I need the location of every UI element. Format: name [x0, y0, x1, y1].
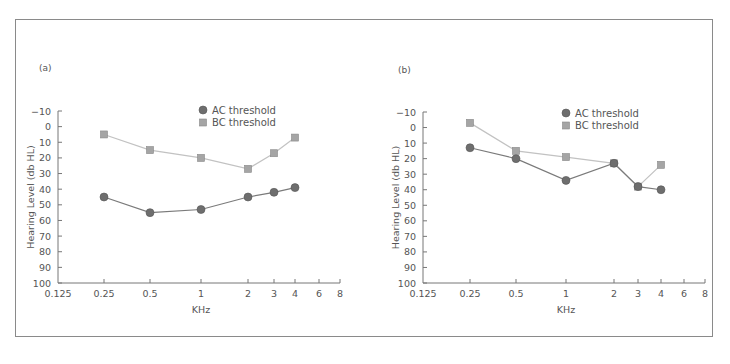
x-tick-label: 0.125 — [44, 288, 71, 299]
y-tick-label: 40 — [404, 184, 416, 195]
ac-threshold-point — [291, 184, 299, 192]
y-tick-label: 30 — [39, 168, 51, 179]
y-tick-label: 100 — [33, 278, 51, 289]
ac-threshold-point — [244, 193, 252, 201]
x-tick-label: 0.25 — [93, 288, 114, 299]
y-tick-label: 10 — [39, 137, 51, 148]
x-tick-label: 1 — [563, 288, 569, 299]
legend-ac-marker-icon — [199, 106, 207, 114]
ac-threshold-point — [197, 206, 205, 214]
x-tick-label: 0.5 — [508, 288, 523, 299]
bc-threshold-point — [271, 150, 278, 157]
x-tick-label: 0.5 — [142, 288, 157, 299]
ac-threshold-point — [146, 209, 154, 217]
bc-threshold-point — [467, 119, 474, 126]
bc-threshold-point — [513, 147, 520, 154]
ac-threshold-point — [562, 176, 570, 184]
x-tick-label: 8 — [337, 288, 343, 299]
ac-threshold-point — [657, 186, 665, 194]
x-tick-label: 8 — [702, 288, 708, 299]
y-tick-label: 70 — [39, 231, 51, 242]
legend-ac-label: AC threshold — [212, 105, 276, 116]
legend-bc-label: BC threshold — [575, 120, 639, 131]
y-tick-label: 100 — [398, 278, 416, 289]
y-tick-label: 0 — [410, 122, 416, 133]
bc-threshold-point — [101, 131, 108, 138]
legend: AC thresholdBC threshold — [199, 105, 276, 129]
chart-panel-b: (b)−1001020304050607080901000.1250.250.5… — [390, 65, 708, 315]
ac-threshold-point — [512, 155, 520, 163]
ac-threshold-point — [634, 183, 642, 191]
x-tick-label: 2 — [611, 288, 617, 299]
x-tick-label: 4 — [658, 288, 664, 299]
y-tick-label: 90 — [39, 262, 51, 273]
y-tick-label: 80 — [404, 246, 416, 257]
chart-panel-a: (a)−1001020304050607080901000.1250.250.5… — [25, 63, 343, 315]
legend-ac-marker-icon — [562, 109, 570, 117]
x-tick-label: 4 — [292, 288, 298, 299]
y-axis-title: Hearing Level (db HL) — [25, 145, 36, 248]
x-tick-label: 3 — [271, 288, 277, 299]
y-tick-label: 60 — [404, 215, 416, 226]
x-tick-label: 2 — [245, 288, 251, 299]
y-tick-label: 60 — [39, 215, 51, 226]
legend-bc-marker-icon — [200, 119, 207, 126]
bc-threshold-point — [147, 147, 154, 154]
panel-label: (a) — [39, 63, 52, 73]
y-tick-label: 50 — [39, 199, 51, 210]
y-tick-label: 20 — [39, 152, 51, 163]
bc-threshold-point — [658, 161, 665, 168]
y-tick-label: 20 — [404, 153, 416, 164]
y-tick-label: 40 — [39, 184, 51, 195]
x-tick-label: 1 — [198, 288, 204, 299]
bc-threshold-point — [292, 134, 299, 141]
x-tick-label: 0.25 — [459, 288, 480, 299]
y-axis-title: Hearing Level (db HL) — [390, 146, 401, 249]
y-tick-label: 30 — [404, 169, 416, 180]
y-tick-label: 70 — [404, 231, 416, 242]
y-tick-label: −10 — [31, 106, 51, 117]
y-tick-label: 0 — [45, 121, 51, 132]
ac-threshold-point — [610, 159, 618, 167]
bc-threshold-point — [563, 154, 570, 161]
y-tick-label: 10 — [404, 138, 416, 149]
x-tick-label: 0.125 — [409, 288, 436, 299]
ac-threshold-point — [466, 144, 474, 152]
x-axis-title: KHz — [192, 304, 210, 315]
y-tick-label: 90 — [404, 262, 416, 273]
bc-threshold-point — [198, 154, 205, 161]
ac-threshold-point — [270, 188, 278, 196]
bc-threshold-line — [104, 134, 295, 168]
y-tick-label: 80 — [39, 246, 51, 257]
x-axis-title: KHz — [557, 304, 575, 315]
audiogram-figure: (a)−1001020304050607080901000.1250.250.5… — [0, 0, 730, 364]
legend-bc-label: BC threshold — [212, 117, 276, 128]
x-tick-label: 3 — [635, 288, 641, 299]
legend-bc-marker-icon — [563, 122, 570, 129]
ac-threshold-point — [100, 193, 108, 201]
legend-ac-label: AC threshold — [575, 108, 639, 119]
x-tick-label: 6 — [681, 288, 687, 299]
bc-threshold-point — [245, 165, 252, 172]
legend: AC thresholdBC threshold — [562, 108, 639, 132]
x-tick-label: 6 — [316, 288, 322, 299]
y-tick-label: −10 — [396, 107, 416, 118]
y-tick-label: 50 — [404, 200, 416, 211]
panel-label: (b) — [398, 65, 411, 75]
